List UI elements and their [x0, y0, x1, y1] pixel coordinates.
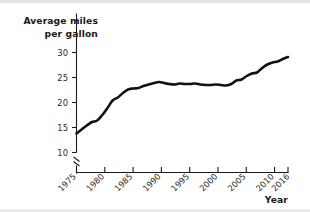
y-tick-marks: [72, 53, 77, 153]
chart-figure: Average miles per gallon 30 25 20 15 10: [0, 0, 310, 212]
y-tick-label-15: 15: [57, 123, 68, 133]
y-tick-label-30: 30: [57, 48, 68, 58]
x-tick-label-1975: 1975: [56, 171, 78, 193]
x-tick-marks: [77, 167, 289, 173]
y-axis-label-line1: Average miles: [23, 15, 98, 26]
y-tick-label-20: 20: [57, 98, 68, 108]
line-chart: Average miles per gallon 30 25 20 15 10: [0, 0, 310, 212]
x-tick-label-1990: 1990: [141, 171, 163, 193]
y-axis-label-line2: per gallon: [45, 28, 98, 39]
x-tick-label-1985: 1985: [112, 171, 134, 193]
x-tick-label-2005: 2005: [226, 171, 248, 193]
y-tick-label-10: 10: [57, 148, 68, 158]
x-tick-label-1995: 1995: [169, 171, 191, 193]
x-axis-label: Year: [264, 194, 289, 205]
y-axis-break-icon: [74, 157, 80, 166]
y-tick-label-25: 25: [57, 73, 68, 83]
x-tick-label-2000: 2000: [197, 171, 219, 193]
mpg-trend-line: [77, 57, 289, 134]
x-tick-label-1980: 1980: [84, 171, 106, 193]
x-tick-label-2016: 2016: [269, 171, 291, 193]
